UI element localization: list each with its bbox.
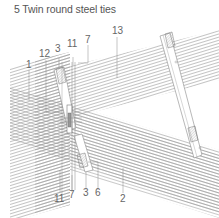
label-11-bottom: 11 xyxy=(54,193,65,204)
label-3-bottom: 3 xyxy=(83,187,89,198)
label-3-top: 3 xyxy=(55,43,61,54)
label-12: 12 xyxy=(39,48,51,59)
label-2: 2 xyxy=(120,193,126,204)
timber-rafter-13 xyxy=(70,30,219,118)
label-11-top: 11 xyxy=(67,38,78,49)
label-13: 13 xyxy=(112,25,124,36)
steel-tie-diagram: 1 12 3 11 7 13 11 7 3 6 2 xyxy=(0,0,219,218)
label-6: 6 xyxy=(95,187,101,198)
label-7-bottom: 7 xyxy=(69,189,75,200)
label-7-top: 7 xyxy=(85,34,91,45)
timber-beam-2-right xyxy=(70,108,219,218)
label-1: 1 xyxy=(26,59,32,70)
